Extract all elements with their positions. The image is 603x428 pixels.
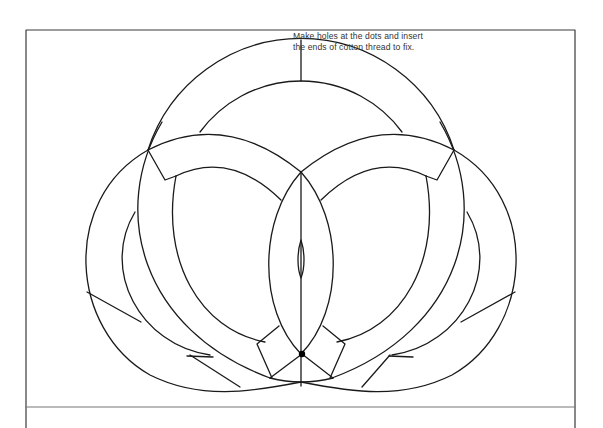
lens-right-arc [301,172,333,354]
thread-hole-dot [299,351,305,357]
lens-left-arc [269,172,301,354]
left-band-inner-arc [176,167,281,200]
right-band-outer-arc [301,134,454,172]
left-band-end-cut [148,150,176,180]
dot-left-diagonal [270,354,302,378]
dot-right-diagonal [302,354,333,378]
ring-template-diagram [0,0,603,428]
top-ring-inner-arc [200,81,402,132]
right-tab-bracket [323,326,345,378]
left-lower-wedge-line-1 [87,292,141,322]
right-ring-inner-arc-a [392,212,480,355]
left-lower-wedge-line-2 [190,355,240,387]
right-band-end-cut [426,150,454,180]
right-ring-band-arc [332,122,464,378]
left-band-outer-arc [148,134,301,172]
right-lower-wedge-line-2 [362,355,390,387]
left-lower-wedge-notch [187,356,213,357]
right-ring-inner-arc-b [337,176,430,342]
left-tab-bracket [257,326,279,378]
instruction-line-1: Make holes at the dots and insert [293,31,493,42]
left-ring-inner-arc-b [172,176,265,342]
left-ring-band-arc [138,122,270,378]
instruction-text: Make holes at the dots and insert the en… [293,31,493,52]
right-lower-wedge-notch [389,356,413,357]
instruction-line-2: the ends of cotton thread to fix. [293,42,493,53]
right-band-inner-arc [321,167,426,200]
left-ring-inner-arc-a [122,212,210,355]
right-lower-wedge-line-1 [461,292,515,322]
